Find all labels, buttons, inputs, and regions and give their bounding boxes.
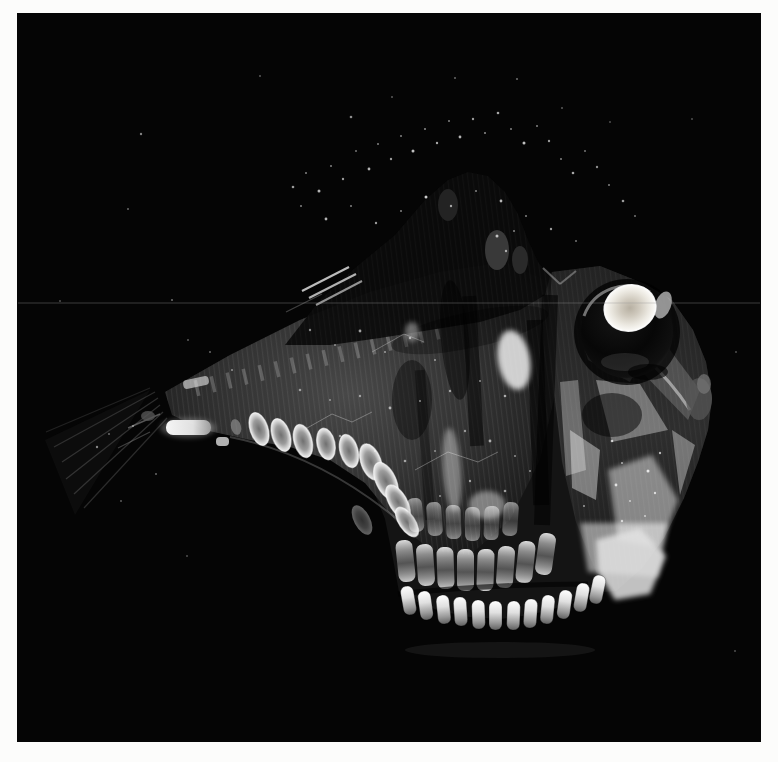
speckle (292, 186, 295, 189)
speckle (615, 484, 618, 487)
speckle (516, 78, 518, 80)
speckle (560, 158, 562, 160)
tail-photophore-dim (141, 411, 155, 421)
speckle (583, 505, 585, 507)
speckle (489, 440, 492, 443)
speckle (425, 196, 428, 199)
speckle (359, 330, 362, 333)
speckle (561, 107, 563, 109)
speckle (299, 389, 302, 392)
speckle (377, 143, 379, 145)
speckle (355, 150, 357, 152)
speckle (584, 150, 586, 152)
speckle (622, 200, 625, 203)
speckle (644, 515, 646, 517)
speckle (629, 500, 631, 502)
keel-photophore (523, 599, 538, 629)
speckle (375, 222, 377, 224)
speckle (127, 208, 129, 210)
speckle (259, 75, 261, 77)
speckle (654, 492, 656, 494)
speckle (529, 470, 531, 472)
speckle (500, 200, 503, 203)
tail-photophore-bar (166, 420, 211, 435)
speckle (469, 480, 471, 482)
hump-gray-blob (438, 189, 458, 221)
speckle (475, 190, 477, 192)
speckle (140, 133, 142, 135)
speckle (647, 470, 650, 473)
speckle (496, 235, 499, 238)
speckle (454, 77, 456, 79)
speckle (419, 400, 421, 402)
speckle (484, 132, 486, 134)
speckle (334, 344, 336, 346)
speckle (424, 128, 426, 130)
speckle (409, 337, 411, 339)
speckle (550, 228, 552, 230)
speckle (391, 96, 393, 98)
speckle (514, 455, 516, 457)
speckle (325, 218, 328, 221)
speckle (400, 135, 402, 137)
belly-cell (502, 502, 519, 537)
speckle (187, 339, 189, 341)
speckle (368, 168, 371, 171)
speckle (504, 395, 507, 398)
speckle (472, 118, 474, 120)
speckle (305, 172, 307, 174)
speckle (209, 351, 211, 353)
speckle (374, 450, 376, 452)
under-eye-shadow (582, 393, 642, 437)
speckle (390, 158, 392, 160)
speckle (132, 425, 134, 427)
belly-cell (465, 507, 480, 541)
speckle (497, 112, 500, 115)
speckle (359, 395, 361, 397)
photo-svg (0, 0, 778, 762)
speckle (439, 495, 441, 497)
speckle (634, 215, 636, 217)
keel-photophore (453, 597, 468, 627)
speckle (609, 121, 611, 123)
tail-photophore-bar (216, 437, 229, 446)
speckle (691, 118, 693, 120)
preanal-photophore (496, 545, 516, 588)
speckle (505, 250, 507, 252)
speckle (504, 490, 507, 493)
speckle (735, 351, 737, 353)
keel-photophore (506, 601, 520, 630)
speckle (155, 473, 157, 475)
speckle (342, 178, 344, 180)
speckle (536, 125, 538, 127)
speckle (350, 116, 353, 119)
speckle (434, 450, 436, 452)
speckle (231, 369, 233, 371)
belly-cell (426, 502, 443, 537)
speckle (659, 452, 661, 454)
speckle (400, 210, 402, 212)
speckle (436, 142, 438, 144)
speckle (339, 435, 341, 437)
speckle (329, 399, 331, 401)
speckle (523, 142, 526, 145)
belly-cell (445, 505, 461, 540)
eye-lower-shadow (628, 364, 668, 380)
speckle (572, 172, 575, 175)
speckle (120, 500, 122, 502)
speckle (404, 460, 407, 463)
speckle (350, 205, 352, 207)
speckle (548, 140, 550, 142)
keel-photophore (436, 594, 452, 624)
speckle (59, 300, 61, 302)
speckle (464, 430, 466, 432)
keel-photophore (471, 600, 485, 629)
speckle (434, 359, 436, 361)
speckle (330, 165, 332, 167)
speckle (108, 433, 110, 435)
preanal-photophore (416, 543, 436, 586)
speckle (510, 128, 512, 130)
speckle (734, 650, 736, 652)
belly-cell (483, 506, 499, 541)
photo-print-page (0, 0, 778, 762)
